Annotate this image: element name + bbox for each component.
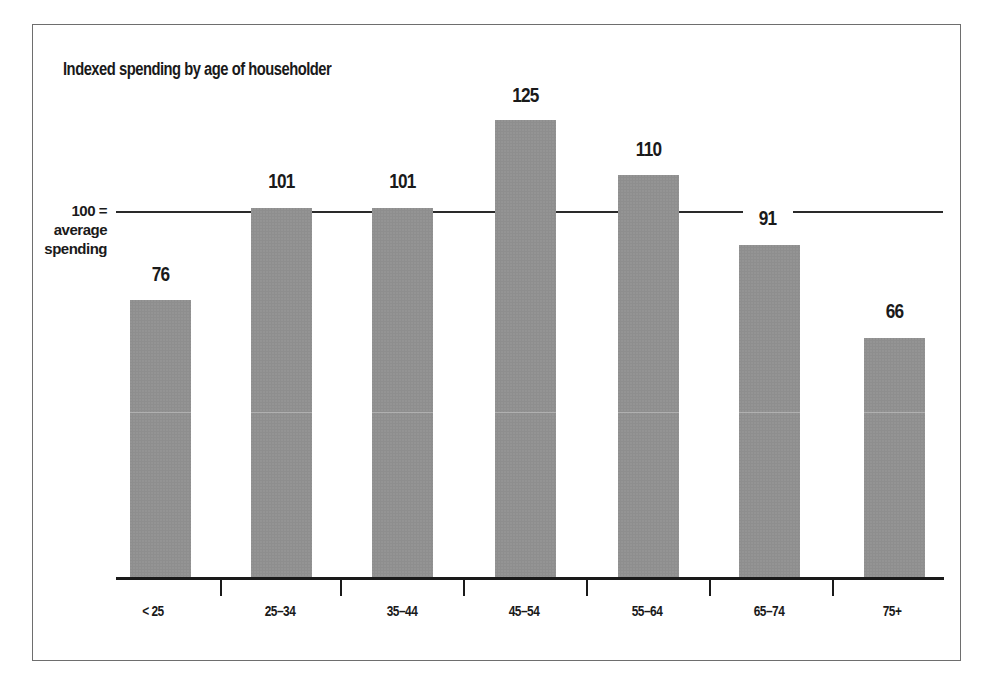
x-axis-tick [709,580,711,596]
x-axis-label: 25–34 [238,603,323,619]
bar-75-plus [864,338,925,579]
x-axis-tick [463,580,465,596]
x-axis-tick [832,580,834,596]
value-label: 101 [256,169,306,193]
value-label: 91 [742,206,792,230]
bar-45-54 [495,120,556,579]
value-label: 110 [623,137,673,161]
x-axis-label: 65–74 [727,603,812,619]
x-axis-label: 75+ [850,603,935,619]
bar-25-34 [251,208,312,579]
value-label: 101 [377,169,427,193]
reference-line-100-right [793,211,943,213]
bar-55-64 [618,175,679,579]
x-axis-label: 55–64 [605,603,690,619]
x-axis-tick [586,580,588,596]
x-axis-label: < 25 [111,603,196,619]
x-axis-baseline [116,577,944,580]
value-label: 66 [869,299,919,323]
bar-under-25 [130,300,191,579]
reference-label-spending: spending [44,239,107,258]
bar-65-74 [739,245,800,579]
x-axis-tick [220,580,222,596]
bar-35-44 [372,208,433,579]
x-axis-tick [340,580,342,596]
x-axis-label: 35–44 [360,603,445,619]
value-label: 76 [135,262,185,286]
chart-title: Indexed spending by age of householder [63,59,331,80]
reference-label-value: 100 = [72,201,107,220]
value-label: 125 [500,83,550,107]
reference-label-average: average [54,220,107,239]
x-axis-label: 45–54 [482,603,567,619]
